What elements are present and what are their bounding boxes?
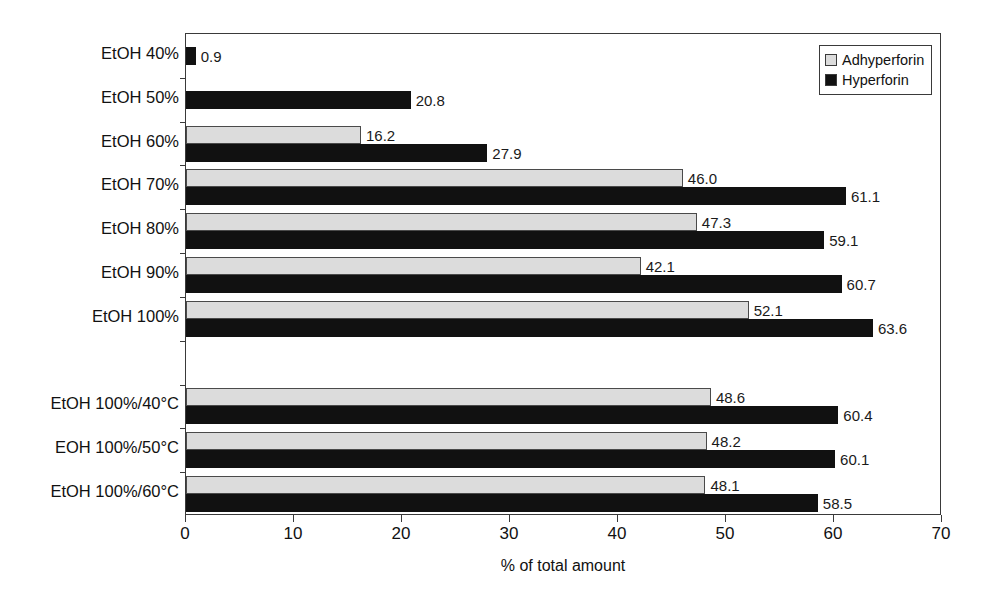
- bar-value-label: 52.1: [749, 301, 783, 318]
- bar-value-label: 61.1: [846, 188, 880, 205]
- bar-value-label: 16.2: [361, 126, 395, 143]
- bar-row: 48.1: [186, 476, 940, 494]
- x-axis-tick-label: 60: [824, 524, 843, 544]
- legend: AdhyperforinHyperforin: [819, 45, 932, 95]
- bar-row: 48.2: [186, 432, 940, 450]
- category-label: EtOH 80%: [101, 219, 179, 238]
- bar-adhyperforin: [186, 257, 641, 275]
- bar-row: 59.1: [186, 231, 940, 249]
- bar-value-label: 20.8: [411, 91, 445, 108]
- x-axis-tick-label: 0: [180, 524, 189, 544]
- bar-adhyperforin: [186, 476, 705, 494]
- x-axis-tick: [509, 515, 510, 522]
- bar-value-label: 47.3: [697, 214, 731, 231]
- bar-hyperforin: [186, 231, 824, 249]
- y-axis-tick: [180, 385, 186, 386]
- y-axis-tick: [180, 253, 186, 254]
- y-axis-tick: [180, 78, 186, 79]
- bar-row: 60.7: [186, 275, 940, 293]
- y-axis-tick: [180, 122, 186, 123]
- bar-value-label: 63.6: [873, 319, 907, 336]
- x-axis-tick-label: 10: [284, 524, 303, 544]
- category-label: EOH 100%/50°C: [55, 438, 179, 457]
- bar-value-label: 46.0: [683, 170, 717, 187]
- legend-swatch-icon: [825, 54, 837, 66]
- x-axis-tick: [941, 515, 942, 522]
- bar-row: 63.6: [186, 319, 940, 337]
- bar-row: 60.1: [186, 450, 940, 468]
- bar-value-label: 59.1: [824, 232, 858, 249]
- bar-hyperforin: [186, 91, 411, 109]
- bar-value-label: 48.2: [707, 433, 741, 450]
- bar-value-label: 27.9: [487, 144, 521, 161]
- x-axis-tick-label: 30: [500, 524, 519, 544]
- category-label: EtOH 100%/40°C: [50, 394, 179, 413]
- x-axis-tick-label: 40: [608, 524, 627, 544]
- category-label: EtOH 40%: [101, 44, 179, 63]
- bar-adhyperforin: [186, 301, 749, 319]
- bar-adhyperforin: [186, 432, 707, 450]
- y-axis-tick: [180, 428, 186, 429]
- category-label: EtOH 100%: [92, 307, 179, 326]
- bar-hyperforin: [186, 275, 842, 293]
- bar-hyperforin: [186, 450, 835, 468]
- x-axis-tick-label: 70: [932, 524, 951, 544]
- bar-value-label: 58.5: [818, 495, 852, 512]
- bar-hyperforin: [186, 144, 487, 162]
- x-axis-tick: [617, 515, 618, 522]
- category-label: EtOH 60%: [101, 132, 179, 151]
- legend-label: Hyperforin: [842, 72, 909, 88]
- bar-adhyperforin: [186, 126, 361, 144]
- bar-row: 60.4: [186, 406, 940, 424]
- bar-value-label: 60.4: [838, 407, 872, 424]
- x-axis-tick: [401, 515, 402, 522]
- bar-row: 52.1: [186, 301, 940, 319]
- x-axis-tick-label: 50: [716, 524, 735, 544]
- bar-chart: EtOH 40%EtOH 50%EtOH 60%EtOH 70%EtOH 80%…: [0, 0, 986, 593]
- bar-hyperforin: [186, 406, 838, 424]
- y-axis-tick: [180, 297, 186, 298]
- bar-row: 42.1: [186, 257, 940, 275]
- bar-value-label: 0.9: [196, 47, 222, 64]
- bar-value-label: 48.1: [705, 477, 739, 494]
- y-axis-tick: [180, 341, 186, 342]
- category-label: EtOH 70%: [101, 175, 179, 194]
- category-label: EtOH 50%: [101, 88, 179, 107]
- legend-label: Adhyperforin: [842, 52, 924, 68]
- y-axis-tick: [180, 209, 186, 210]
- bar-row: 47.3: [186, 213, 940, 231]
- legend-swatch-icon: [825, 74, 837, 86]
- bar-row: 16.2: [186, 126, 940, 144]
- category-label: EtOH 90%: [101, 263, 179, 282]
- bar-value-label: 60.1: [835, 451, 869, 468]
- x-axis-tick: [185, 515, 186, 522]
- x-axis-tick: [833, 515, 834, 522]
- bar-value-label: 48.6: [711, 389, 745, 406]
- legend-item: Adhyperforin: [825, 50, 924, 70]
- bar-hyperforin: [186, 319, 873, 337]
- x-axis-title: % of total amount: [185, 557, 941, 575]
- x-axis-tick-label: 20: [392, 524, 411, 544]
- plot-area: 0.920.816.227.946.061.147.359.142.160.75…: [185, 33, 941, 515]
- bar-hyperforin: [186, 187, 846, 205]
- bar-row: 58.5: [186, 494, 940, 512]
- x-axis-tick: [293, 515, 294, 522]
- bar-row: 48.6: [186, 388, 940, 406]
- legend-item: Hyperforin: [825, 70, 924, 90]
- bar-adhyperforin: [186, 388, 711, 406]
- bar-row: 46.0: [186, 169, 940, 187]
- bar-value-label: 42.1: [641, 258, 675, 275]
- bar-hyperforin: [186, 494, 818, 512]
- bar-adhyperforin: [186, 213, 697, 231]
- bar-value-label: 60.7: [842, 276, 876, 293]
- bar-adhyperforin: [186, 169, 683, 187]
- bar-row: 27.9: [186, 144, 940, 162]
- y-axis-tick: [180, 472, 186, 473]
- bar-row: 61.1: [186, 187, 940, 205]
- category-label: EtOH 100%/60°C: [50, 482, 179, 501]
- x-axis-tick: [725, 515, 726, 522]
- y-axis-tick: [180, 165, 186, 166]
- bar-hyperforin: [186, 47, 196, 65]
